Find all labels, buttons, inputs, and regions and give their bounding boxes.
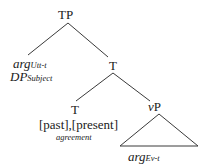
edge-tp-tbar [68,23,108,57]
vp-triangle [120,114,198,146]
node-thead: T [71,103,79,116]
spec-arg-sub: Utt-t [31,60,47,70]
edge-tp-spec [28,23,68,55]
node-vp-content: argEv-t [128,150,160,163]
tree-lines [0,0,209,168]
node-tbar: T [109,59,117,72]
edge-tbar-vp [113,73,150,101]
spec-dp-sub: Subject [27,73,52,83]
thead-features-text: [past],[present] [39,117,118,132]
vp-content-main: arg [128,149,146,164]
edge-tbar-thead [76,73,113,101]
node-spec-dp: DPSubject [10,70,52,83]
thead-features: [past],[present] [39,118,118,131]
node-tbar-label: T [109,58,117,73]
node-thead-label: T [71,102,79,117]
node-vp: vP [148,100,161,113]
node-vp-label: P [154,99,161,114]
thead-note-text: agreement [56,132,92,142]
vp-content-sub: Ev-t [146,153,160,163]
node-tp: TP [58,8,73,21]
thead-note: agreement [56,133,92,142]
node-tp-label: TP [58,7,73,22]
spec-dp-main: DP [10,69,27,84]
